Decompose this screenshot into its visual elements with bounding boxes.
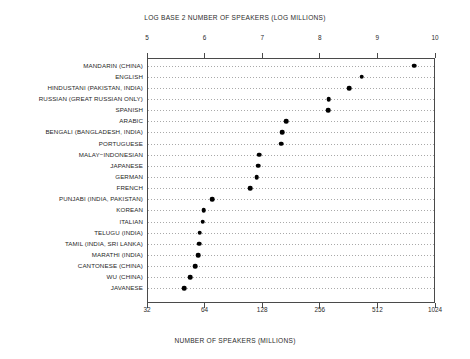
top-tick-label-7: 7 — [260, 34, 264, 41]
data-point — [257, 152, 262, 157]
top-tick-label-8: 8 — [318, 34, 322, 41]
category-label: MALAY−INDONESIAN — [0, 150, 143, 157]
category-label: TELUGU (INDIA) — [0, 228, 143, 235]
category-label: FRENCH — [0, 184, 143, 191]
category-label: BENGALI (BANGLADESH, INDIA) — [0, 128, 143, 135]
top-axis-tick-labels: 5678910 — [0, 34, 470, 44]
top-tick-label-6: 6 — [203, 34, 207, 41]
category-label: ENGLISH — [0, 72, 143, 79]
bottom-axis-tick-labels: 32641282565121024 — [0, 306, 470, 316]
dotchart-figure: LOG BASE 2 NUMBER OF SPEAKERS (LOG MILLI… — [0, 0, 470, 359]
category-label: GERMAN — [0, 173, 143, 180]
category-label: HINDUSTANI (PAKISTAN, INDIA) — [0, 83, 143, 90]
data-point — [202, 208, 207, 213]
data-point — [182, 286, 187, 291]
data-point — [196, 253, 201, 258]
category-label: PUNJABI (INDIA, PAKISTAN) — [0, 195, 143, 202]
data-point — [248, 186, 253, 191]
category-label: JAVANESE — [0, 284, 143, 291]
data-point — [255, 175, 260, 180]
data-point — [188, 275, 193, 280]
category-label: KOREAN — [0, 206, 143, 213]
data-point — [326, 108, 331, 113]
top-tick-label-10: 10 — [431, 34, 438, 41]
data-point — [200, 219, 205, 224]
category-label: MARATHI (INDIA) — [0, 250, 143, 257]
category-label: ARABIC — [0, 117, 143, 124]
category-label: JAPANESE — [0, 161, 143, 168]
data-point — [284, 119, 289, 124]
data-point — [279, 141, 284, 146]
plot-area — [147, 58, 435, 303]
data-point — [359, 74, 364, 79]
data-point — [256, 164, 261, 169]
category-label: RUSSIAN (GREAT RUSSIAN ONLY) — [0, 95, 143, 102]
bottom-tick-label-64: 64 — [201, 306, 208, 313]
bottom-tick-label-128: 128 — [257, 306, 268, 313]
category-label: TAMIL (INDIA, SRI LANKA) — [0, 239, 143, 246]
bottom-tick-label-512: 512 — [372, 306, 383, 313]
category-label: MANDARIN (CHINA) — [0, 61, 143, 68]
category-axis-labels: MANDARIN (CHINA)ENGLISHHINDUSTANI (PAKIS… — [0, 58, 143, 303]
bottom-tick-label-1024: 1024 — [428, 306, 442, 313]
top-tick-label-5: 5 — [145, 34, 149, 41]
category-label: CANTONESE (CHINA) — [0, 262, 143, 269]
data-points-layer — [148, 59, 434, 302]
bottom-tick-label-256: 256 — [314, 306, 325, 313]
bottom-axis-title: NUMBER OF SPEAKERS (MILLIONS) — [0, 337, 470, 344]
data-point — [197, 242, 202, 247]
data-point — [198, 230, 203, 235]
bottom-tick-label-32: 32 — [143, 306, 150, 313]
data-point — [210, 197, 215, 202]
data-point — [193, 264, 198, 269]
category-label: SPANISH — [0, 106, 143, 113]
top-tick-label-9: 9 — [376, 34, 380, 41]
category-label: ITALIAN — [0, 217, 143, 224]
top-axis-title: LOG BASE 2 NUMBER OF SPEAKERS (LOG MILLI… — [0, 14, 470, 21]
data-point — [280, 130, 285, 135]
data-point — [347, 86, 352, 91]
data-point — [412, 63, 417, 68]
data-point — [327, 97, 332, 102]
category-label: PORTUGUESE — [0, 139, 143, 146]
category-label: WU (CHINA) — [0, 273, 143, 280]
